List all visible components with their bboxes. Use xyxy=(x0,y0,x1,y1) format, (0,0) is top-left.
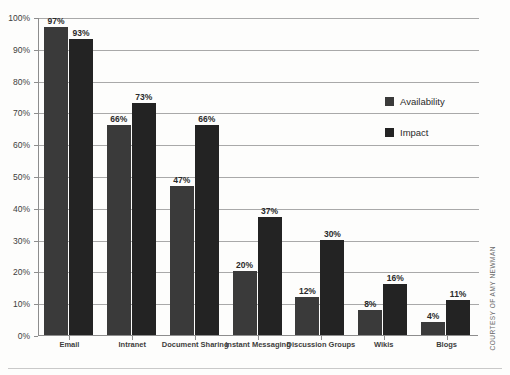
y-tick-label: 20% xyxy=(13,267,30,277)
bar-group: 47%66% xyxy=(165,17,228,335)
bar-value-label: 11% xyxy=(450,289,467,299)
bar-value-label: 66% xyxy=(110,114,127,124)
y-tick-label: 80% xyxy=(13,77,30,87)
bar-group: 20%37% xyxy=(228,17,291,335)
bar-impact[interactable]: 30% xyxy=(320,240,344,335)
y-tick-label: 60% xyxy=(13,140,30,150)
bar-value-label: 16% xyxy=(387,273,404,283)
x-tick-label: Email xyxy=(59,340,79,349)
bar-availability[interactable]: 8% xyxy=(358,310,382,335)
y-axis: 100%90%80%70%60%50%40%30%20%10%0% xyxy=(0,18,34,336)
y-tick-label: 30% xyxy=(13,236,30,246)
y-tick-mark xyxy=(34,18,38,19)
y-tick-mark xyxy=(34,145,38,146)
bar-availability[interactable]: 66% xyxy=(107,125,131,335)
bar-availability[interactable]: 97% xyxy=(44,27,68,335)
y-tick-label: 0% xyxy=(18,331,30,341)
credit-text: COURTESY OF AMY NEWMAN xyxy=(489,246,496,351)
bar-value-label: 37% xyxy=(261,206,278,216)
bar-impact[interactable]: 37% xyxy=(258,217,282,335)
bar-value-label: 4% xyxy=(427,311,439,321)
y-tick-label: 100% xyxy=(8,13,30,23)
chart-figure: 100%90%80%70%60%50%40%30%20%10%0% 97%93%… xyxy=(0,0,510,375)
y-tick-mark xyxy=(34,113,38,114)
bar-group: 97%93% xyxy=(39,17,102,335)
y-tick-label: 90% xyxy=(13,45,30,55)
x-tick-label: Document Sharing xyxy=(162,340,229,349)
bar-impact[interactable]: 93% xyxy=(69,39,93,335)
y-tick-label: 70% xyxy=(13,108,30,118)
x-tick-mark xyxy=(195,336,196,340)
x-tick-mark xyxy=(321,336,322,340)
bar-group: 8%16% xyxy=(353,17,416,335)
y-tick-label: 50% xyxy=(13,172,30,182)
bar-impact[interactable]: 66% xyxy=(195,125,219,335)
x-tick-mark xyxy=(69,336,70,340)
x-axis: EmailIntranetDocument SharingInstant Mes… xyxy=(38,340,478,354)
bar-availability[interactable]: 20% xyxy=(233,271,257,335)
x-tick-mark xyxy=(132,336,133,340)
y-tick-mark xyxy=(34,50,38,51)
bar-availability[interactable]: 47% xyxy=(170,186,194,335)
bar-value-label: 93% xyxy=(72,28,89,38)
bottom-divider xyxy=(8,368,502,369)
plot-area: 97%93%66%73%47%66%20%37%12%30%8%16%4%11% xyxy=(38,18,478,336)
x-tick-label: Instant Messaging xyxy=(225,340,290,349)
bar-value-label: 20% xyxy=(236,260,253,270)
y-tick-mark xyxy=(34,82,38,83)
y-tick-mark xyxy=(34,336,38,337)
x-tick-label: Discussion Groups xyxy=(286,340,355,349)
bar-availability[interactable]: 12% xyxy=(295,297,319,335)
x-tick-mark xyxy=(447,336,448,340)
legend-swatch-icon xyxy=(385,97,394,106)
x-tick-label: Blogs xyxy=(436,340,457,349)
y-tick-mark xyxy=(34,177,38,178)
bar-value-label: 73% xyxy=(135,92,152,102)
y-tick-label: 10% xyxy=(13,299,30,309)
bar-value-label: 47% xyxy=(173,175,190,185)
bar-group: 4%11% xyxy=(416,17,479,335)
y-tick-mark xyxy=(34,304,38,305)
bar-value-label: 8% xyxy=(364,299,376,309)
bar-value-label: 30% xyxy=(324,229,341,239)
x-tick-mark xyxy=(384,336,385,340)
legend-item-impact[interactable]: Impact xyxy=(385,127,481,138)
y-tick-label: 40% xyxy=(13,204,30,214)
x-tick-mark xyxy=(258,336,259,340)
legend-label: Availability xyxy=(400,96,445,107)
legend-item-availability[interactable]: Availability xyxy=(385,96,481,107)
bar-group: 66%73% xyxy=(102,17,165,335)
y-tick-mark xyxy=(34,241,38,242)
legend-label: Impact xyxy=(400,127,429,138)
bar-availability[interactable]: 4% xyxy=(421,322,445,335)
y-tick-mark xyxy=(34,272,38,273)
y-tick-mark xyxy=(34,209,38,210)
bar-impact[interactable]: 16% xyxy=(383,284,407,335)
bar-value-label: 97% xyxy=(47,16,64,26)
x-tick-label: Wikis xyxy=(374,340,394,349)
legend-swatch-icon xyxy=(385,128,394,137)
bar-value-label: 12% xyxy=(299,286,316,296)
bar-group: 12%30% xyxy=(290,17,353,335)
x-tick-label: Intranet xyxy=(119,340,147,349)
bar-impact[interactable]: 73% xyxy=(132,103,156,335)
bar-impact[interactable]: 11% xyxy=(446,300,470,335)
chart-legend: AvailabilityImpact xyxy=(385,96,481,158)
bar-value-label: 66% xyxy=(198,114,215,124)
